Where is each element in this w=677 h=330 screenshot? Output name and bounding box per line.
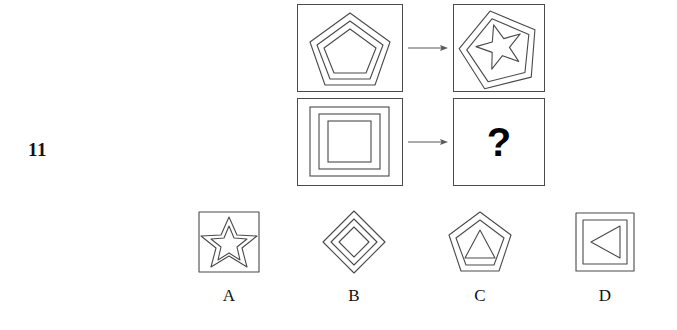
option-a-figure <box>169 206 289 278</box>
pentagon-with-star-figure <box>454 5 543 90</box>
option-d-label: D <box>545 286 665 306</box>
stem-cell-row1-left <box>297 4 403 92</box>
question-mark: ? <box>454 99 544 185</box>
option-c-label: C <box>420 286 540 306</box>
option-a-label: A <box>169 286 289 306</box>
option-b-label: B <box>294 286 414 306</box>
option-d[interactable]: D <box>545 206 665 306</box>
answer-options: A B C <box>0 206 677 316</box>
arrow-row1 <box>407 41 449 55</box>
section-divider <box>88 196 677 199</box>
option-c-figure <box>420 206 540 278</box>
arrow-right-icon <box>407 135 449 149</box>
square-with-triangle-figure <box>571 208 639 276</box>
stem-matrix: ? <box>297 4 547 188</box>
question-number: 11 <box>28 139 47 161</box>
stem-cell-row2-left <box>297 98 403 186</box>
pentagon-with-triangle-figure <box>446 208 514 276</box>
arrow-row2 <box>407 135 449 149</box>
arrow-right-icon <box>407 41 449 55</box>
option-a[interactable]: A <box>169 206 289 306</box>
option-d-figure <box>545 206 665 278</box>
option-c[interactable]: C <box>420 206 540 306</box>
stem-cell-answer-placeholder: ? <box>453 98 545 186</box>
nested-pentagons-figure <box>298 5 401 90</box>
option-b[interactable]: B <box>294 206 414 306</box>
stem-cell-row1-right <box>453 4 545 92</box>
nested-diamonds-figure <box>320 208 388 276</box>
nested-squares-figure <box>298 99 401 184</box>
option-b-figure <box>294 206 414 278</box>
square-with-double-star-figure <box>195 208 263 276</box>
